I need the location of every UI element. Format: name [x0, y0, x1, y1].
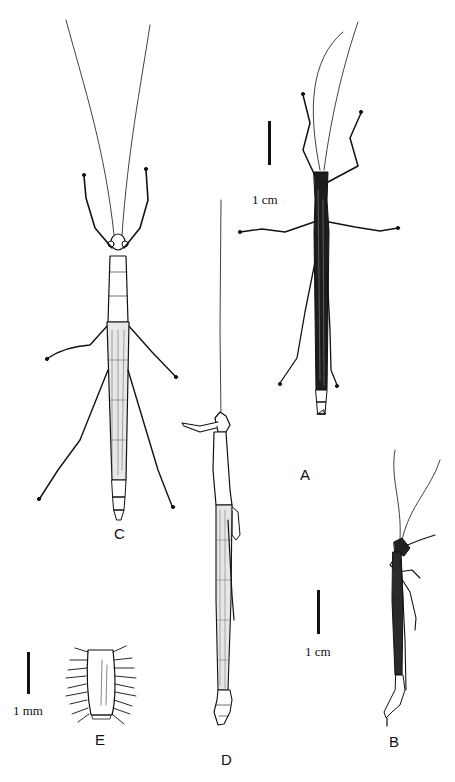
specimen-d-drawing	[182, 200, 240, 725]
specimen-a-drawing	[238, 22, 399, 414]
detail-e-drawing	[66, 646, 136, 724]
specimen-c-drawing	[37, 20, 177, 520]
specimen-b-drawing	[384, 450, 440, 726]
figure-drawings	[0, 0, 455, 782]
